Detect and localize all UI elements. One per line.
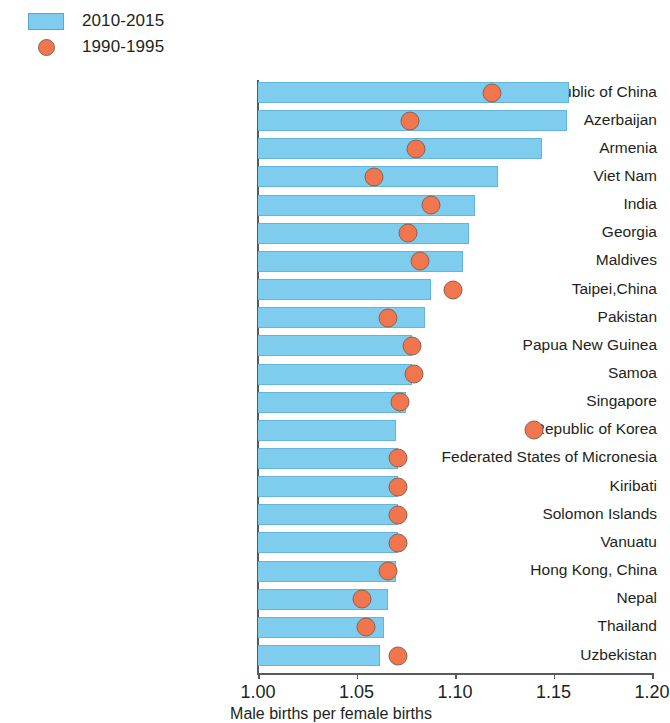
category-label: Papua New Guinea [410,336,662,354]
x-tick-mark [652,673,654,679]
category-label: Samoa [410,364,662,382]
dot-1990-1995 [388,505,407,524]
bar-2010-2015 [258,504,398,525]
dot-1990-1995 [390,393,409,412]
bar-2010-2015 [258,335,412,356]
category-label: Pakistan [410,308,662,326]
category-label: Singapore [410,392,662,410]
bar-2010-2015 [258,195,475,216]
x-tick-mark [554,673,556,679]
bar-2010-2015 [258,476,398,497]
category-label: Vanuatu [410,533,662,551]
category-label: Thailand [410,617,662,635]
dot-1990-1995 [353,590,372,609]
bar-2010-2015 [258,645,380,666]
bar-2010-2015 [258,82,569,103]
bar-2010-2015 [258,420,396,441]
dot-1990-1995 [398,224,417,243]
dot-1990-1995 [365,167,384,186]
dot-1990-1995 [402,336,421,355]
bar-2010-2015 [258,138,542,159]
dot-1990-1995 [422,196,441,215]
x-tick-mark [455,673,457,679]
x-tick-label: 1.05 [339,682,374,703]
bar-2010-2015 [258,251,463,272]
dot-1990-1995 [388,449,407,468]
bar-2010-2015 [258,448,398,469]
x-tick-mark [357,673,359,679]
x-tick-label: 1.10 [437,682,472,703]
category-label: Nepal [410,589,662,607]
dot-1990-1995 [388,477,407,496]
x-tick-label: 1.00 [240,682,275,703]
bar-2010-2015 [258,279,431,300]
category-label: Uzbekistan [410,646,662,664]
bar-2010-2015 [258,561,396,582]
category-label: Kiribati [410,477,662,495]
bar-2010-2015 [258,307,425,328]
dot-1990-1995 [357,618,376,637]
x-tick-mark [258,673,260,679]
dot-1990-1995 [410,252,429,271]
dot-1990-1995 [404,365,423,384]
dot-1990-1995 [444,280,463,299]
dot-1990-1995 [388,533,407,552]
category-label: Solomon Islands [410,505,662,523]
dot-1990-1995 [388,646,407,665]
x-tick-label: 1.15 [536,682,571,703]
category-label: Federated States of Micronesia [410,448,662,466]
dot-1990-1995 [483,83,502,102]
dot-1990-1995 [406,139,425,158]
bar-2010-2015 [258,364,412,385]
x-tick-label: 1.20 [634,682,669,703]
bar-2010-2015 [258,392,406,413]
dot-1990-1995 [400,111,419,130]
category-label: Hong Kong, China [410,561,662,579]
dot-1990-1995 [379,562,398,581]
x-axis-title: Male births per female births [0,705,662,723]
bar-2010-2015 [258,223,469,244]
dot-1990-1995 [524,421,543,440]
bar-2010-2015 [258,532,398,553]
dot-1990-1995 [379,308,398,327]
